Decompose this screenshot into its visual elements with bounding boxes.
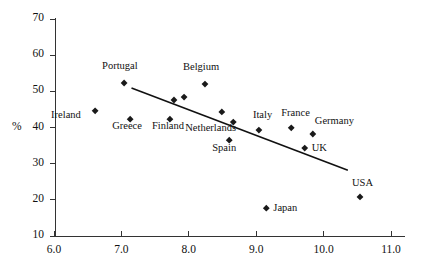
x-tick-label: 6.0	[29, 243, 79, 255]
data-point-marker	[255, 127, 262, 134]
x-tick-label: 9.0	[231, 243, 281, 255]
y-tick-label: 50	[10, 83, 44, 95]
data-point-marker	[218, 109, 225, 116]
data-point-marker	[288, 124, 295, 131]
data-point-marker	[171, 97, 178, 104]
data-point-marker	[202, 81, 209, 88]
data-point-label: France	[281, 107, 310, 118]
x-tick-label: 7.0	[96, 243, 146, 255]
scatter-chart: 102030405060706.07.08.09.010.011.0%Irela…	[0, 0, 422, 276]
data-point-label: Finland	[152, 120, 184, 131]
x-tick-label: 11.0	[366, 243, 416, 255]
y-tick-label: 20	[10, 192, 44, 204]
y-tick-label: 60	[10, 47, 44, 59]
y-tick-label: 30	[10, 156, 44, 168]
data-point-label: Ireland	[51, 109, 81, 120]
data-point-label: Italy	[253, 109, 272, 120]
data-point-label: UK	[312, 142, 327, 153]
data-point-marker	[301, 145, 308, 152]
data-point-label: Japan	[273, 202, 297, 213]
data-point-marker	[263, 205, 270, 212]
data-point-marker	[181, 94, 188, 101]
data-point-marker	[121, 80, 128, 87]
data-point-label: Greece	[112, 120, 142, 131]
x-tick-label: 8.0	[164, 243, 214, 255]
plot-area	[0, 0, 422, 276]
data-point-label: USA	[352, 177, 373, 188]
data-point-label: Spain	[212, 142, 236, 153]
data-point-marker	[92, 107, 99, 114]
data-point-label: Germany	[315, 115, 354, 126]
y-axis-title: %	[12, 120, 22, 132]
x-tick-label: 10.0	[299, 243, 349, 255]
data-point-label: Portugal	[102, 60, 138, 71]
data-point-label: Belgium	[183, 61, 219, 72]
data-point-marker	[357, 194, 364, 201]
data-point-marker	[309, 131, 316, 138]
y-tick-label: 10	[10, 228, 44, 240]
data-point-label: Netherlands	[185, 122, 236, 133]
y-tick-label: 70	[10, 11, 44, 23]
